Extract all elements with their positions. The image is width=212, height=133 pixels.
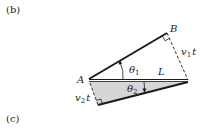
L-label: L: [157, 66, 165, 77]
point-label-A: A: [76, 74, 84, 85]
theta1-arc: [120, 62, 123, 80]
panel-label-b: (b): [6, 4, 20, 15]
right-angle-B: [162, 36, 170, 41]
line-AB: [89, 33, 167, 79]
panel-label-c: (c): [6, 113, 20, 124]
shaded-triangle: [89, 81, 188, 105]
v1t-label: v1t: [181, 46, 197, 59]
velocity-diagram: (b) (c) A B θ1 L θ2 v1t v2t: [0, 0, 212, 133]
v2t-label: v2t: [75, 92, 91, 105]
theta1-label: θ1: [129, 64, 140, 77]
point-label-B: B: [169, 23, 177, 34]
